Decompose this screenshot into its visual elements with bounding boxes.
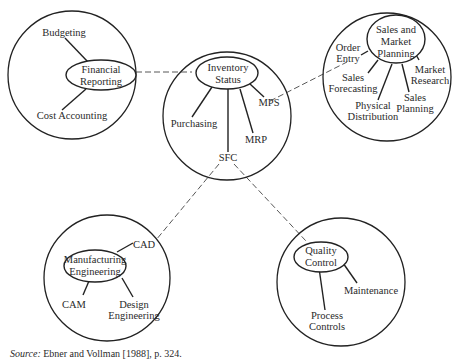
hub-label: Quality — [305, 245, 337, 256]
spoke-cam — [83, 281, 89, 295]
spoke-physical-distribution — [378, 64, 392, 100]
spoke-cad — [117, 243, 133, 252]
node-design-engineering: Engineering — [108, 310, 160, 321]
spoke-maintenance — [343, 263, 357, 283]
spoke-process-controls — [319, 268, 325, 310]
hub-label: Status — [215, 74, 241, 85]
node-process-controls: Controls — [309, 321, 345, 332]
spoke-budgeting — [65, 38, 88, 62]
link-sfc-cad — [156, 164, 219, 240]
node-cost-accounting: Cost Accounting — [37, 110, 108, 121]
spoke-mrp — [240, 89, 253, 133]
spoke-design-engineering — [122, 278, 133, 297]
node-sfc: SFC — [219, 152, 238, 163]
node-maintenance: Maintenance — [344, 285, 399, 296]
integration-diagram: Financial Reporting Budgeting Cost Accou… — [0, 0, 457, 361]
node-order-entry: Entry — [336, 53, 360, 64]
cluster-inventory: Inventory Status Purchasing MRP MPS SFC — [163, 52, 291, 180]
spoke-mps — [250, 84, 264, 97]
spoke-purchasing — [192, 87, 212, 117]
cluster-quality: Quality Control Maintenance Process Cont… — [277, 218, 405, 346]
hub-label: Market — [381, 36, 411, 47]
source-caption: Source: Ebner and Vollman [1988], p. 324… — [10, 348, 182, 359]
source-label: Source: — [10, 348, 41, 359]
hub-label: Manufacturing — [64, 254, 127, 265]
hub-label: Planning — [377, 48, 415, 59]
link-sfc-quality — [234, 164, 306, 241]
node-design-engineering: Design — [119, 299, 149, 310]
source-text: Ebner and Vollman [1988], p. 324. — [41, 348, 182, 359]
hub-label: Engineering — [69, 266, 121, 277]
node-mrp: MRP — [245, 134, 267, 145]
cluster-manufacturing: Manufacturing Engineering CAD CAM Design… — [44, 215, 170, 341]
hub-label: Reporting — [80, 76, 123, 87]
hub-label: Sales and — [376, 24, 417, 35]
hub-label: Financial — [81, 64, 120, 75]
node-mps: MPS — [258, 97, 279, 108]
spoke-sales-planning — [402, 64, 409, 92]
node-process-controls: Process — [311, 310, 343, 321]
node-physical-distribution: Distribution — [348, 111, 400, 122]
node-purchasing: Purchasing — [171, 118, 218, 129]
node-order-entry: Order — [336, 42, 361, 53]
spoke-order-entry — [361, 51, 368, 55]
node-sales-forecasting: Sales — [342, 72, 364, 83]
spoke-cost-accounting — [62, 89, 86, 110]
node-budgeting: Budgeting — [42, 27, 86, 38]
hub-label: Control — [305, 257, 337, 268]
spoke-sales-forecasting — [368, 60, 378, 73]
node-cam: CAM — [62, 299, 87, 310]
hub-label: Inventory — [208, 62, 250, 73]
node-market-research: Market — [415, 64, 445, 75]
node-sales-planning: Sales — [404, 92, 426, 103]
node-sales-planning: Planning — [396, 103, 434, 114]
node-physical-distribution: Physical — [355, 100, 391, 111]
cluster-financial: Financial Reporting Budgeting Cost Accou… — [8, 11, 136, 139]
node-sales-forecasting: Forecasting — [329, 83, 379, 94]
node-market-research: Research — [411, 75, 450, 86]
node-cad: CAD — [133, 239, 156, 250]
cluster-sales: Sales and Market Planning Order Entry Sa… — [323, 13, 451, 141]
